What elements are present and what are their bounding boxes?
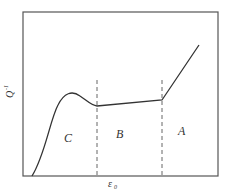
y-axis-label: Q -1: [3, 85, 15, 98]
plot-frame: [23, 12, 218, 176]
svg-text:ε: ε: [108, 178, 112, 189]
region-b-label: B: [116, 127, 124, 141]
diagram-canvas: C B A Q -1 ε 0: [0, 0, 225, 191]
x-axis-label: ε 0: [108, 178, 117, 190]
region-c-label: C: [64, 131, 73, 145]
damping-curve: [32, 45, 199, 176]
svg-text:-1: -1: [3, 85, 9, 90]
region-a-label: A: [177, 124, 186, 138]
svg-text:Q: Q: [4, 90, 15, 98]
svg-text:0: 0: [114, 184, 117, 190]
